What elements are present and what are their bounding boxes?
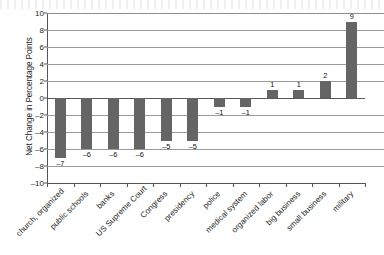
bar — [55, 98, 66, 158]
bar-value-label: –5 — [189, 142, 197, 151]
plot-area: 1086420–2–4–6–8–10 –7–6–6–6–5–5–1–11129 … — [47, 13, 365, 183]
y-axis-tick-mark — [44, 30, 47, 31]
bar-value-label: –1 — [242, 108, 250, 117]
bar-value-label: –6 — [109, 150, 117, 159]
gridline — [47, 166, 384, 167]
x-axis-tick-mark — [74, 183, 75, 187]
y-axis-title: Net Change in Percentage Points — [25, 12, 34, 182]
gridline — [47, 132, 384, 133]
gridline — [47, 64, 384, 65]
y-axis-tick-mark — [44, 132, 47, 133]
y-axis-tick-label: –10 — [31, 179, 44, 188]
bar-value-label: 1 — [270, 80, 274, 89]
bar-value-label: 1 — [297, 80, 301, 89]
x-axis-tick-mark — [153, 183, 154, 187]
bar-value-label: 2 — [323, 71, 327, 80]
bar — [293, 90, 304, 99]
x-axis-tick-mark — [259, 183, 260, 187]
zero-baseline — [47, 98, 365, 99]
y-axis-tick-mark — [44, 47, 47, 48]
x-axis-tick-mark — [100, 183, 101, 187]
y-axis-tick-mark — [44, 149, 47, 150]
x-axis-category-label: church, organized — [15, 189, 64, 238]
bar-value-label: 9 — [350, 12, 354, 21]
gridline — [47, 30, 384, 31]
x-axis-tick-mark — [286, 183, 287, 187]
x-axis-tick-mark — [365, 183, 366, 187]
gridline — [47, 13, 384, 14]
x-axis-tick-mark — [127, 183, 128, 187]
y-axis-tick-mark — [44, 98, 47, 99]
bar-chart: Net Change in Percentage Points 1086420–… — [0, 0, 384, 255]
bar — [81, 98, 92, 149]
bar-value-label: –7 — [56, 159, 64, 168]
bar — [240, 98, 251, 107]
gridline — [47, 81, 384, 82]
gridline — [47, 149, 384, 150]
x-axis-tick-mark — [233, 183, 234, 187]
bar-value-label: –5 — [162, 142, 170, 151]
y-axis-tick-label: –8 — [35, 162, 44, 171]
x-axis-tick-mark — [206, 183, 207, 187]
y-axis-tick-label: –4 — [35, 128, 44, 137]
x-axis-tick-mark — [339, 183, 340, 187]
bar — [267, 90, 278, 99]
y-axis-tick-label: –6 — [35, 145, 44, 154]
y-axis-tick-mark — [44, 81, 47, 82]
y-axis-tick-mark — [44, 166, 47, 167]
gridline — [47, 47, 384, 48]
bar-value-label: –1 — [215, 108, 223, 117]
bar — [187, 98, 198, 141]
y-axis-tick-label: 10 — [35, 9, 44, 18]
y-axis-tick-mark — [44, 13, 47, 14]
bar — [161, 98, 172, 141]
bar — [346, 22, 357, 99]
bar-value-label: –6 — [136, 150, 144, 159]
bar — [214, 98, 225, 107]
bar — [320, 81, 331, 98]
y-axis-tick-mark — [44, 115, 47, 116]
x-axis-tick-mark — [312, 183, 313, 187]
x-axis-tick-mark — [180, 183, 181, 187]
bar — [108, 98, 119, 149]
y-axis-tick-label: –2 — [35, 111, 44, 120]
bar — [134, 98, 145, 149]
y-axis-tick-mark — [44, 64, 47, 65]
scan-noise-artifact — [0, 0, 384, 9]
bar-value-label: –6 — [83, 150, 91, 159]
x-axis-tick-mark — [47, 183, 48, 187]
